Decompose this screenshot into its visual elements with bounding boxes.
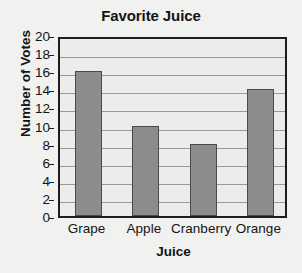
y-tick-mark bbox=[49, 218, 54, 219]
y-tick-mark bbox=[49, 200, 54, 201]
y-tick-mark bbox=[49, 128, 54, 129]
y-axis-tick-labels: 20181614121086420 bbox=[0, 37, 54, 218]
bar bbox=[75, 71, 102, 216]
bar bbox=[190, 144, 217, 216]
chart-title: Favorite Juice bbox=[0, 7, 302, 24]
y-tick-label: 14 bbox=[35, 85, 50, 99]
y-tick-mark bbox=[49, 109, 54, 110]
y-tick-mark bbox=[49, 164, 54, 165]
y-tick-mark bbox=[49, 91, 54, 92]
x-tick-label: Apple bbox=[127, 221, 162, 236]
y-tick-label: 12 bbox=[35, 103, 50, 117]
y-tick-mark bbox=[49, 37, 54, 38]
bar-chart-figure: Favorite Juice Number of Votes 201816141… bbox=[0, 0, 302, 273]
x-axis-title: Juice bbox=[58, 244, 289, 259]
x-tick-label: Orange bbox=[236, 221, 281, 236]
bar bbox=[247, 89, 274, 216]
y-tick-label: 10 bbox=[35, 121, 50, 135]
x-axis-tick-labels: GrapeAppleCranberryOrange bbox=[58, 221, 287, 241]
y-tick-mark bbox=[49, 73, 54, 74]
x-tick-label: Cranberry bbox=[171, 221, 231, 236]
y-tick-mark bbox=[49, 146, 54, 147]
bar-series bbox=[60, 39, 285, 216]
y-tick-label: 16 bbox=[35, 66, 50, 80]
x-tick-label: Grape bbox=[68, 221, 106, 236]
plot-area bbox=[58, 37, 287, 218]
y-tick-mark bbox=[49, 182, 54, 183]
bar bbox=[132, 126, 159, 217]
y-tick-label: 20 bbox=[35, 30, 50, 44]
y-tick-label: 18 bbox=[35, 48, 50, 62]
y-tick-mark bbox=[49, 55, 54, 56]
